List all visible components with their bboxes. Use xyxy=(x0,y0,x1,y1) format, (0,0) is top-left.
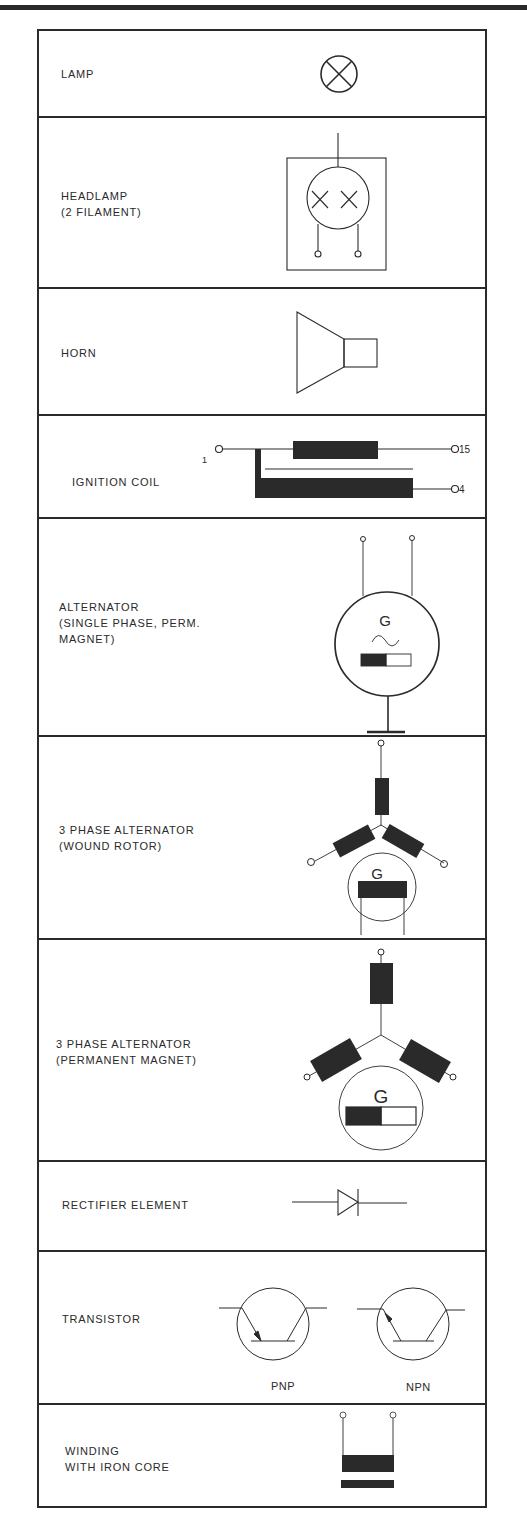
terminal-1-label: 1 xyxy=(202,455,207,465)
diode-icon xyxy=(292,1189,407,1216)
pnp-transistor-icon xyxy=(219,1288,327,1360)
three-phase-wound-rotor-icon xyxy=(308,740,448,935)
horn-icon xyxy=(297,312,377,393)
terminal-4-label: 4 xyxy=(459,484,465,495)
three-phase-pm-icon xyxy=(304,949,456,1150)
winding-iron-core-icon xyxy=(340,1412,396,1488)
npn-transistor-icon xyxy=(357,1288,465,1360)
ignition-coil-icon xyxy=(216,441,459,498)
pnp-label: PNP xyxy=(271,1380,295,1392)
terminal-15-label: 15 xyxy=(459,444,471,455)
alternator-icon xyxy=(335,536,439,733)
npn-label: NPN xyxy=(406,1381,431,1393)
generator-glyph: G xyxy=(374,1086,389,1107)
generator-glyph: G xyxy=(371,865,383,882)
symbols-layer: 1 15 4 G G G xyxy=(0,0,527,1529)
generator-glyph: G xyxy=(379,612,391,629)
headlamp-icon xyxy=(287,133,386,270)
lamp-icon xyxy=(321,56,357,92)
